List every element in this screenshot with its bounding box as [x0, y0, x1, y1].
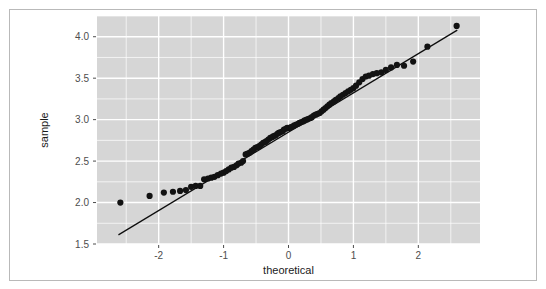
y-axis-ticks: 1.52.02.53.03.54.0 — [75, 31, 96, 249]
x-axis-ticks: -2-1012 — [154, 245, 421, 261]
qq-data-point — [161, 189, 167, 195]
qq-data-point — [394, 62, 400, 68]
y-tick-label: 3.5 — [75, 73, 89, 84]
y-axis-title: sample — [38, 112, 50, 147]
x-tick-label: -1 — [219, 250, 228, 261]
x-tick-label: 1 — [351, 250, 357, 261]
qq-data-point — [410, 59, 416, 65]
qq-data-point — [454, 23, 460, 29]
qq-data-point — [183, 187, 189, 193]
qq-data-point — [170, 189, 176, 195]
figure-root: -2-1012 1.52.02.53.03.54.0 theoretical s… — [0, 0, 546, 289]
y-tick-label: 2.5 — [75, 156, 89, 167]
y-tick-label: 2.0 — [75, 197, 89, 208]
y-tick-label: 4.0 — [75, 31, 89, 42]
x-tick-label: -2 — [154, 250, 163, 261]
qq-data-point — [240, 158, 246, 164]
x-tick-label: 0 — [286, 250, 292, 261]
x-tick-label: 2 — [416, 250, 422, 261]
qq-data-point — [388, 64, 394, 70]
qq-data-point — [117, 199, 123, 205]
qq-data-point — [424, 44, 430, 50]
qq-data-point — [401, 63, 407, 69]
y-tick-label: 3.0 — [75, 114, 89, 125]
y-tick-label: 1.5 — [75, 239, 89, 250]
qq-data-point — [146, 193, 152, 199]
qq-data-point — [177, 188, 183, 194]
qq-plot-area: -2-1012 1.52.02.53.03.54.0 theoretical s… — [0, 0, 546, 289]
x-axis-title: theoretical — [263, 264, 314, 276]
qq-data-point — [197, 183, 203, 189]
qq-plot-svg: -2-1012 1.52.02.53.03.54.0 theoretical s… — [0, 0, 546, 289]
